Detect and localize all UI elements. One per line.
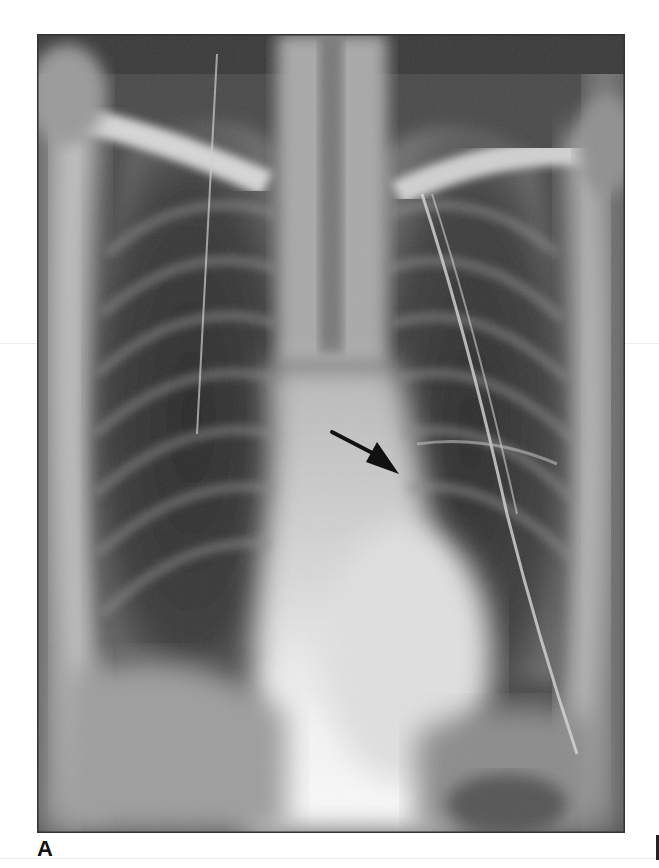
divider-line <box>0 858 659 859</box>
xray-rendering <box>37 34 625 833</box>
chest-xray-image <box>37 34 625 833</box>
panel-label: A <box>37 836 53 862</box>
